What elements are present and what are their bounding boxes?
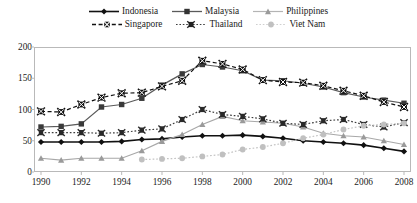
series-thailand <box>37 106 407 136</box>
series-singapore <box>37 57 408 116</box>
line-chart: Indonesia Malaysia Philippines <box>0 0 417 203</box>
series-indonesia <box>38 132 407 154</box>
series-layer <box>0 0 417 203</box>
series-malaysia <box>38 62 406 130</box>
